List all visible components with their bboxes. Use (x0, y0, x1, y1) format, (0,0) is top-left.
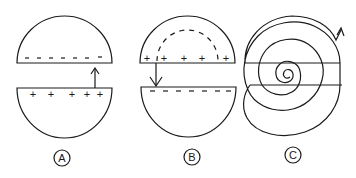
panel-a: + + + + + A (17, 16, 112, 166)
panel-c-spiral-path (244, 16, 341, 136)
panel-a-bottom-positive-charges: + + + + + (30, 88, 103, 100)
panel-a-label: A (58, 152, 66, 164)
svg-text:+: + (161, 52, 167, 64)
svg-text:+: + (48, 88, 54, 100)
svg-text:+: + (223, 52, 229, 64)
panel-a-arrow-up-icon (91, 68, 99, 88)
panel-b-bottom-dee (141, 87, 236, 137)
svg-text:+: + (30, 88, 36, 100)
panel-a-top-negative-charges (25, 57, 102, 58)
panel-b-top-dee (140, 16, 235, 63)
panel-c-label: C (289, 149, 297, 161)
svg-text:+: + (199, 52, 205, 64)
panel-b-label: B (188, 151, 195, 163)
svg-text:+: + (97, 88, 103, 100)
svg-text:+: + (69, 88, 75, 100)
svg-text:+: + (84, 88, 90, 100)
svg-text:+: + (181, 52, 187, 64)
panel-c: C (244, 16, 344, 163)
cyclotron-dee-diagram: + + + + + A + + + + + (0, 0, 356, 178)
panel-b-arrow-down-icon (150, 63, 162, 86)
panel-a-top-dee (17, 16, 112, 63)
panel-b: + + + + + B (140, 16, 236, 165)
svg-text:+: + (144, 52, 150, 64)
